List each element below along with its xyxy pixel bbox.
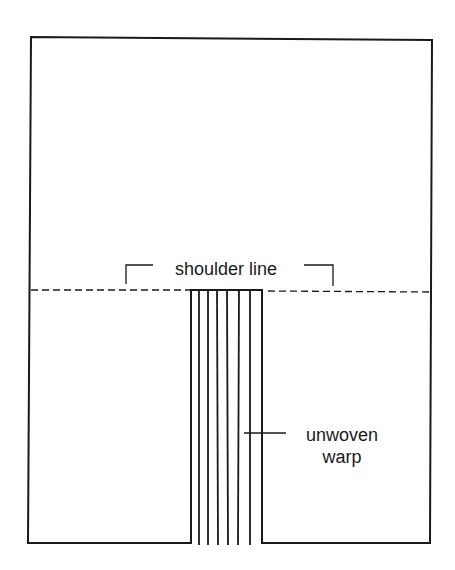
shoulder-dashed-line-right [268, 291, 430, 292]
warp-thread [238, 290, 239, 545]
unwoven-label: unwoven [306, 425, 378, 445]
shoulder-line-label: shoulder line [175, 259, 277, 279]
shoulder-bracket-left [126, 265, 153, 284]
warp-threads [199, 290, 250, 545]
weaving-diagram: shoulder line unwoven warp [0, 0, 455, 570]
warp-thread [227, 290, 228, 545]
warp-label: warp [321, 447, 361, 467]
shoulder-bracket-right [304, 265, 333, 286]
warp-thread [217, 290, 218, 545]
